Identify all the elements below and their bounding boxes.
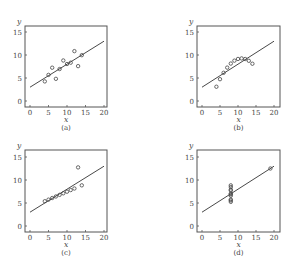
x-tick-label: 5 [218,109,222,117]
y-tick-label: 0 [18,223,22,231]
x-tick-label: 0 [28,109,32,117]
x-tick-label: 0 [200,109,204,117]
data-point [76,64,79,67]
plot-frame [197,26,280,107]
data-point [215,85,218,88]
plot-frame [25,150,107,232]
panel-label: (c) [61,249,71,257]
y-tick-label: 10 [185,177,194,185]
y-tick-label: 5 [190,75,194,83]
data-point [240,57,243,60]
data-point [251,62,254,65]
data-point [76,166,79,169]
y-tick-label: 0 [190,223,194,231]
y-tick-label: 10 [13,52,22,60]
plot-frame [197,150,280,232]
data-point [69,188,72,191]
x-tick-label: 20 [270,109,279,117]
y-tick-label: 10 [185,52,194,60]
y-axis-label: y [16,141,22,150]
data-point [226,66,229,69]
regression-line [202,166,274,212]
x-tick-label: 0 [28,234,32,242]
x-tick-label: 15 [252,234,261,242]
data-point [73,187,76,190]
regression-line [30,166,104,212]
data-point [73,49,76,52]
y-tick-label: 15 [13,154,22,162]
panel-label: (b) [234,124,244,132]
regression-line [30,41,104,87]
data-point [51,66,54,69]
scatter-panel-d: 05101520051015yx(d) [185,141,280,257]
x-tick-label: 15 [81,109,90,117]
y-axis-label: y [188,17,194,26]
x-tick-label: 20 [100,109,109,117]
data-point [62,192,65,195]
data-point [80,184,83,187]
x-tick-label: 20 [270,234,279,242]
y-tick-label: 10 [13,177,22,185]
x-tick-label: 15 [81,234,90,242]
panel-label: (d) [234,249,244,257]
plot-frame [25,26,107,107]
data-point [43,80,46,83]
data-point [233,59,236,62]
y-axis-label: y [16,17,22,26]
y-tick-label: 5 [18,75,22,83]
x-tick-label: 5 [218,234,222,242]
data-point [229,62,232,65]
y-axis-label: y [188,141,194,150]
scatter-panel-b: 05101520051015yx(b) [185,17,280,132]
x-tick-label: 5 [46,109,50,117]
data-point [62,59,65,62]
x-tick-label: 20 [100,234,109,242]
regression-line [202,41,274,87]
x-tick-label: 15 [252,109,261,117]
scatter-panel-c: 05101520051015yx(c) [13,141,108,257]
y-tick-label: 5 [190,200,194,208]
y-tick-label: 15 [185,154,194,162]
data-point [218,77,221,80]
y-tick-label: 0 [18,98,22,106]
y-tick-label: 15 [13,29,22,37]
y-tick-label: 15 [185,29,194,37]
data-point [247,59,250,62]
data-point [54,77,57,80]
data-point [236,57,239,60]
y-tick-label: 0 [190,98,194,106]
y-tick-label: 5 [18,200,22,208]
panel-label: (a) [61,124,71,132]
data-point [65,190,68,193]
x-tick-label: 0 [200,234,204,242]
scatter-panel-a: 05101520051015yx(a) [13,17,108,132]
anscombe-quartet-figure: 05101520051015yx(a)05101520051015yx(b)05… [0,0,293,272]
x-tick-label: 5 [46,234,50,242]
data-point [43,200,46,203]
